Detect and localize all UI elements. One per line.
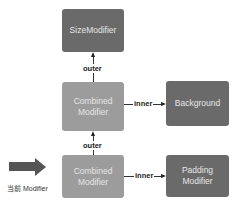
combined-top-line2: Modifier (74, 107, 113, 118)
current-modifier-label: 当前 Modifier (7, 183, 48, 193)
size-modifier-label: SizeModifier (70, 25, 117, 36)
arrow-up-icon (91, 131, 95, 136)
padding-modifier-node: Padding Modifier (166, 155, 229, 197)
arrow-up-icon (91, 52, 95, 57)
size-modifier-node: SizeModifier (62, 9, 124, 52)
background-label: Background (175, 98, 220, 109)
combined-top-line1: Combined (74, 96, 113, 107)
outer-label-bottom: outer (82, 141, 103, 150)
outer-label-top: outer (82, 64, 103, 73)
background-node: Background (166, 81, 229, 126)
combined-bottom-line1: Combined (74, 166, 113, 177)
combined-bottom-line2: Modifier (74, 177, 113, 188)
current-pointer-arrow-shaft (9, 162, 36, 171)
combined-modifier-top-node: Combined Modifier (62, 82, 124, 131)
inner-label-top: inner (133, 99, 153, 108)
current-pointer-arrow-icon (35, 158, 46, 176)
combined-modifier-bottom-node: Combined Modifier (62, 155, 124, 198)
inner-label-bottom: inner (134, 171, 154, 180)
padding-line2: Modifier (182, 176, 213, 187)
padding-line1: Padding (182, 165, 213, 176)
